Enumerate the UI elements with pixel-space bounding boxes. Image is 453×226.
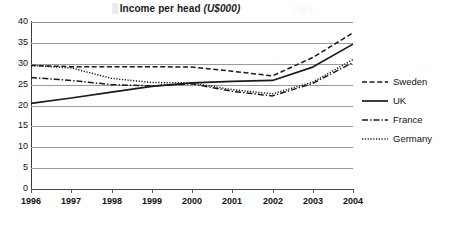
- series-lines: [31, 22, 353, 189]
- x-axis-tick-1997: [71, 189, 72, 193]
- chart-title: Income per head (U$000): [0, 3, 360, 14]
- y-tick-label-20: 20: [2, 101, 28, 110]
- y-tick-label-30: 30: [2, 59, 28, 68]
- line-chart: █░▒ ░▒░ ░ Income per head (U$000) 403530…: [0, 0, 453, 226]
- x-tick-label-2001: 2001: [212, 196, 252, 206]
- x-tick-label-1998: 1998: [92, 196, 132, 206]
- legend-swatch-uk-icon: [362, 96, 388, 106]
- legend-swatch-sweden-icon: [362, 77, 388, 87]
- plot-area: [31, 22, 353, 189]
- x-axis-tick-2004: [353, 189, 354, 193]
- x-axis-tick-2003: [313, 189, 314, 193]
- legend-item-germany[interactable]: Germany: [362, 129, 452, 148]
- x-axis-tick-2000: [192, 189, 193, 193]
- chart-title-main: Income per head: [120, 3, 204, 14]
- y-tick-label-40: 40: [2, 17, 28, 26]
- legend-swatch-germany-icon: [362, 134, 388, 144]
- y-tick-label-10: 10: [2, 142, 28, 151]
- x-axis-tick-2001: [232, 189, 233, 193]
- y-tick-label-0: 0: [2, 184, 28, 193]
- y-tick-label-15: 15: [2, 121, 28, 130]
- x-tick-label-2002: 2002: [253, 196, 293, 206]
- x-axis-tick-2002: [273, 189, 274, 193]
- x-tick-label-2000: 2000: [172, 196, 212, 206]
- series-line-germany: [31, 60, 353, 94]
- y-tick-label-25: 25: [2, 80, 28, 89]
- legend-label-uk: UK: [388, 95, 406, 106]
- x-axis-tick-1998: [112, 189, 113, 193]
- x-tick-label-1997: 1997: [51, 196, 91, 206]
- legend-label-france: France: [388, 114, 423, 125]
- chart-legend: SwedenUKFranceGermany: [362, 72, 452, 148]
- x-tick-label-1999: 1999: [132, 196, 172, 206]
- x-tick-label-1996: 1996: [11, 196, 51, 206]
- x-tick-label-2003: 2003: [293, 196, 333, 206]
- series-line-uk: [31, 44, 353, 103]
- y-tick-label-35: 35: [2, 38, 28, 47]
- legend-item-sweden[interactable]: Sweden: [362, 72, 452, 91]
- legend-swatch-france-icon: [362, 115, 388, 125]
- x-axis-tick-1999: [152, 189, 153, 193]
- x-axis-tick-labels: 199619971998199920002001200220032004: [31, 196, 353, 210]
- x-axis-tick-1996: [31, 189, 32, 193]
- legend-item-france[interactable]: France: [362, 110, 452, 129]
- legend-label-sweden: Sweden: [388, 76, 427, 87]
- x-axis-ticks: [31, 189, 353, 194]
- x-tick-label-2004: 2004: [333, 196, 373, 206]
- legend-item-uk[interactable]: UK: [362, 91, 452, 110]
- y-axis-tick-labels: 4035302520151050: [0, 22, 28, 189]
- legend-label-germany: Germany: [388, 133, 432, 144]
- chart-title-units: (U$000): [204, 3, 241, 14]
- y-tick-label-5: 5: [2, 163, 28, 172]
